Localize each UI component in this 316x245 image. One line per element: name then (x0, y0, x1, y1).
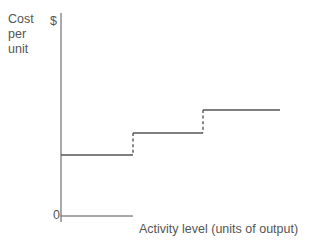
plot-area (0, 0, 316, 245)
step-cost-curve (61, 110, 280, 155)
axis-lines-group (61, 13, 133, 222)
chart-figure: Cost per unit $ 0 Activity level (units … (0, 0, 316, 245)
